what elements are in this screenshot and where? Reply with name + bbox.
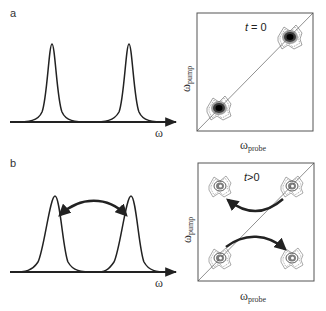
panel-a-2d-map: t = 0 ωprobe ωpump [179, 13, 313, 153]
spectrum-curve [12, 196, 168, 272]
omega-axis-label: ω [155, 126, 163, 140]
panel-b-2d-map: t>0 ωprobe ωpump [180, 163, 314, 304]
y-axis-label: ωpump [180, 217, 195, 243]
x-axis-label: ωprobe [240, 289, 267, 304]
spectrum-curve [12, 44, 168, 122]
figure-canvas: ω t = 0 ωprobe ωpump ω t>0 ωprobe ωpump [0, 0, 326, 311]
time-label: t>0 [244, 171, 260, 183]
x-axis-label: ωprobe [240, 138, 267, 153]
panel-a-spectrum: ω [10, 44, 176, 140]
omega-axis-label: ω [155, 276, 163, 290]
exchange-arrow [60, 201, 126, 215]
time-label: t = 0 [245, 21, 267, 33]
y-axis-label: ωpump [179, 66, 194, 92]
panel-b-spectrum: ω [10, 196, 176, 290]
